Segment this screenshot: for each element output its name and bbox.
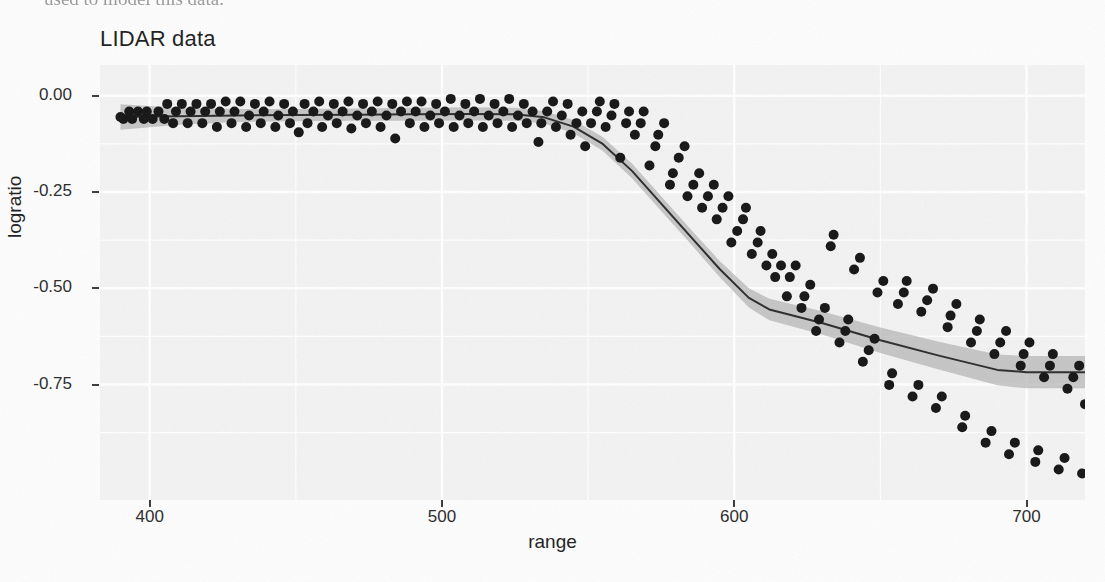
data-points-group [115, 94, 1085, 479]
fitted-curve [120, 114, 1085, 372]
x-tick-mark [1026, 500, 1028, 507]
y-tick-mark [92, 384, 99, 386]
plot-canvas [100, 65, 1085, 500]
y-tick-mark [92, 191, 99, 193]
x-tick-label: 600 [720, 507, 748, 527]
y-tick-label: -0.75 [33, 374, 72, 394]
x-tick-label: 500 [428, 507, 456, 527]
lidar-figure: LIDAR data logratio 0.00-0.25-0.50-0.75 … [0, 0, 1105, 582]
y-tick-mark [92, 287, 99, 289]
x-tick-label: 700 [1012, 507, 1040, 527]
x-tick-label: 400 [136, 507, 164, 527]
y-axis-title: logratio [4, 176, 26, 238]
y-tick-label: 0.00 [39, 85, 72, 105]
y-tick-label: -0.25 [33, 181, 72, 201]
y-tick-label: -0.50 [33, 277, 72, 297]
chart-title: LIDAR data [100, 26, 216, 52]
x-tick-mark [733, 500, 735, 507]
x-axis-title: range [0, 531, 1105, 553]
confidence-band [120, 104, 1085, 388]
x-tick-mark [441, 500, 443, 507]
y-tick-mark [92, 95, 99, 97]
plot-panel [100, 65, 1085, 500]
x-tick-mark [149, 500, 151, 507]
